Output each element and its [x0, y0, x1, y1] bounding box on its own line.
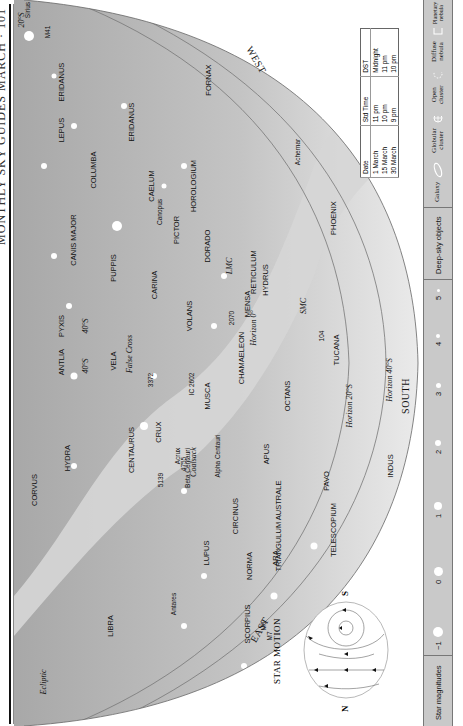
cell: Midnight: [371, 29, 381, 77]
label-104: 104: [319, 331, 326, 342]
legend-diffuse-nebula: Diffuse nebula: [424, 28, 452, 66]
legend-mag-0: 0: [424, 567, 452, 584]
globular-cluster-icon: [433, 116, 443, 123]
label-columba: COLUMBA: [90, 151, 98, 188]
label-alpha-centauri: Alpha Centauri: [215, 435, 222, 478]
mag-label: 3: [434, 392, 443, 396]
cell: 10 pm: [380, 76, 389, 125]
legend-galaxy: Galaxy: [424, 162, 452, 202]
table-row: 1 March 11 pm Midnight: [371, 29, 381, 178]
label-phoenix: PHOENIX: [330, 201, 338, 235]
label-smc: SMC: [300, 298, 308, 314]
galaxy-label: Galaxy: [434, 182, 441, 202]
star-motion-diagram: STAR MOTION N S: [270, 576, 420, 726]
mag-label: 2: [434, 450, 443, 454]
label-achernar: Achernar: [295, 139, 302, 165]
label-chamaeleon: CHAMAELEON: [238, 332, 246, 385]
planetary-nebula-label: Planetary nebula: [432, 0, 445, 26]
label-coalsack: Coalsack: [190, 447, 198, 477]
divider: [424, 279, 452, 280]
star-dot-icon: [436, 383, 441, 388]
label-canopus: Canopus: [157, 199, 164, 225]
label-eridanus-2: ERIDANUS: [128, 103, 136, 142]
label-2070: 2070: [229, 311, 236, 325]
open-cluster-label: Open cluster: [431, 81, 446, 108]
label-caelum: CAELUM: [148, 170, 156, 201]
legend-magnitudes-label: Star magnitudes: [424, 665, 452, 720]
header-rule: [9, 4, 11, 724]
label-ara: ARA: [272, 550, 280, 565]
mag-label: 1: [434, 514, 443, 518]
star-dot-icon: [433, 627, 443, 637]
label-corvus: CORVUS: [31, 474, 39, 506]
star-dot-icon: [436, 334, 440, 338]
cell: 11 pm: [380, 29, 389, 77]
th-std: Std Time: [361, 76, 371, 125]
legend-open-cluster: Open cluster: [424, 72, 452, 108]
diffuse-nebula-label: Diffuse nebula: [431, 37, 446, 66]
cell: 9 pm: [389, 76, 399, 125]
table-row: 30 March 9 pm 10 pm: [389, 29, 399, 178]
cell: 1 March: [371, 126, 381, 178]
time-table: Date Std Time DST 1 March 11 pm Midnight…: [360, 28, 399, 178]
label-fornax: FORNAX: [205, 64, 213, 95]
legend-deep-sky-label: Deep-sky objects: [424, 216, 452, 274]
legend-mag-2: 2: [424, 440, 452, 454]
divider: [424, 207, 452, 208]
open-cluster-icon: [433, 72, 443, 79]
label-5139: 5139: [158, 473, 165, 487]
label-pictor: PICTOR: [173, 216, 181, 244]
star-dot-icon: [434, 502, 442, 510]
label-horizon-0: Horizon 0°: [250, 310, 258, 345]
mag-label: 0: [434, 580, 443, 584]
label-apus: APUS: [263, 444, 271, 464]
star-motion-title: STAR MOTION: [272, 576, 282, 726]
mag-label: 5: [434, 296, 443, 300]
legend-globular-cluster: Globular cluster: [424, 116, 452, 156]
label-false-cross: False Cross: [126, 335, 134, 373]
legend-mag-minus1: −1: [424, 627, 452, 650]
label-lupus: LUPUS: [203, 540, 211, 565]
label-m41: M41: [45, 26, 52, 39]
globular-cluster-label: Globular cluster: [431, 125, 446, 156]
label-libra: LIBRA: [107, 615, 115, 637]
legend-bar: Star magnitudes −1 0 1 2 3 4 5 Deep-sky …: [423, 0, 453, 726]
label-indus: INDUS: [387, 454, 395, 477]
th-date: Date: [361, 126, 371, 178]
mag-label: 4: [434, 342, 443, 346]
star-dot-icon: [434, 567, 443, 576]
label-carina: CARINA: [151, 271, 159, 299]
label-hydra: HYDRA: [64, 445, 72, 471]
legend-mag-5: 5: [424, 289, 452, 300]
page-title: MONTHLY SKY GUIDES MARCH · 101: [0, 8, 9, 245]
label-norma: NORMA: [246, 552, 254, 580]
label-horizon-40s: Horizon 40°S: [386, 358, 394, 401]
label-volans: VOLANS: [186, 301, 194, 331]
label-dec-20s: 20°S: [18, 12, 26, 27]
label-horologium: HOROLOGIUM: [190, 160, 198, 212]
label-hydrus: HYDRUS: [262, 264, 270, 296]
label-3372: 3372: [148, 373, 155, 387]
legend-mag-4: 4: [424, 334, 452, 346]
label-centaurus: CENTAURUS: [128, 427, 136, 473]
divider: [424, 655, 452, 656]
galaxy-icon: [433, 162, 443, 178]
label-horizon-20s: Horizon 20°S: [346, 384, 354, 427]
label-lepus: LEPUS: [58, 118, 66, 143]
label-circinus: CIRCINUS: [232, 498, 240, 534]
cell: 30 March: [389, 126, 399, 178]
label-ic2602: IC 2602: [189, 373, 196, 396]
page-header: MONTHLY SKY GUIDES MARCH · 101: [0, 0, 14, 726]
label-pavo: PAVO: [323, 471, 331, 491]
label-4755: 4755: [181, 457, 188, 471]
diffuse-nebula-icon: [433, 28, 443, 35]
mag-label: −1: [434, 641, 443, 650]
label-antares: Antares: [171, 593, 178, 615]
legend-mag-3: 3: [424, 383, 452, 396]
label-octans: OCTANS: [284, 381, 292, 412]
label-reticulum: RETICULUM: [250, 250, 258, 294]
cell: 15 March: [380, 126, 389, 178]
label-south: S: [340, 591, 350, 596]
label-dec-40s-2: 40°S: [82, 358, 90, 373]
label-ecliptic: Ecliptic: [40, 670, 48, 695]
